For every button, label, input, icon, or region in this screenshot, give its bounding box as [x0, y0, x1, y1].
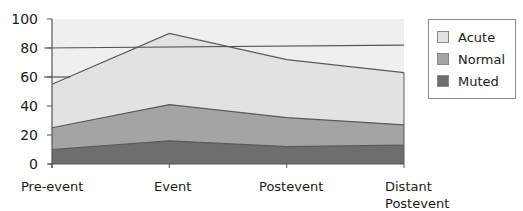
legend-item-acute: Acute [437, 29, 495, 45]
legend-label: Acute [458, 30, 495, 45]
legend-item-normal: Normal [437, 51, 505, 67]
x-label-distant-postevent: Distant Postevent [385, 178, 449, 211]
legend-label: Muted [458, 74, 499, 89]
y-tick-label: 100 [0, 12, 38, 26]
legend-item-muted: Muted [437, 73, 499, 89]
y-tick-label: 80 [0, 41, 38, 55]
x-label-line: Event [154, 178, 191, 195]
x-label-line: Postevent [259, 178, 323, 195]
legend-label: Normal [458, 52, 505, 67]
y-tick-label: 20 [0, 128, 38, 142]
x-label-line: Pre-event [21, 178, 83, 195]
y-tick-label: 60 [0, 70, 38, 84]
x-label-line: Distant [385, 178, 449, 195]
x-label-line: Postevent [385, 195, 449, 211]
legend-swatch-icon [437, 53, 449, 65]
x-label-pre-event: Pre-event [21, 178, 83, 195]
legend-swatch-icon [437, 75, 449, 87]
x-label-event: Event [154, 178, 191, 195]
y-tick-label: 40 [0, 99, 38, 113]
chart-legend: Acute Normal Muted [428, 19, 516, 99]
x-label-postevent: Postevent [259, 178, 323, 195]
y-tick-label: 0 [0, 157, 38, 171]
legend-swatch-icon [437, 31, 449, 43]
